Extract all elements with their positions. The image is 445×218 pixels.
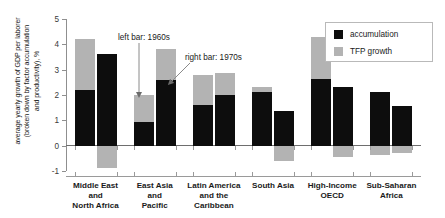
bar-middle-east-and-north-africa-1970s[interactable] — [97, 19, 117, 171]
category-label-high-income-oecd-line-2: OECD — [299, 191, 366, 201]
category-label-latin-america-and-the-caribbean-line-2: and the — [180, 191, 247, 201]
category-label-sub-saharan-africa-line-2: Africa — [358, 191, 425, 201]
bar-high-income-oecd-1970s-accumulation-segment — [333, 87, 353, 145]
annotation-right-bar: right bar: 1970s — [185, 53, 242, 62]
y-tick-1 — [62, 120, 66, 121]
category-label-sub-saharan-africa: Sub-SaharanAfrica — [358, 181, 425, 201]
bar-high-income-oecd-1970s-tfp-segment — [333, 146, 353, 157]
y-tick-label-0: 0 — [54, 141, 59, 150]
category-label-east-asia-and-pacific-line-1: East Asia — [121, 181, 188, 191]
x-tick-latin-america-and-the-caribbean-1 — [235, 146, 236, 150]
category-label-south-asia: South Asia — [240, 181, 307, 191]
y-axis-title-line-1: average yearly growth of GDP per laborer — [14, 17, 22, 144]
y-axis-title: average yearly growth of GDP per laborer… — [5, 1, 51, 161]
y-tick-label-5: 5 — [54, 15, 59, 24]
legend-label-accumulation: accumulation — [350, 30, 398, 39]
bottom-tick-sub-saharan-africa-0 — [370, 172, 371, 176]
bar-south-asia-1960s-accumulation-segment — [252, 92, 272, 145]
chart-container: average yearly growth of GDP per laborer… — [0, 0, 445, 218]
bar-middle-east-and-north-africa-1970s-tfp-segment — [97, 146, 117, 169]
bottom-tick-east-asia-and-pacific-0 — [134, 172, 135, 176]
y-tick-label-2: 2 — [54, 91, 59, 100]
bar-east-asia-and-pacific-1960s-tfp-segment — [134, 95, 154, 122]
x-tick-sub-saharan-africa-0 — [370, 146, 371, 150]
category-label-latin-america-and-the-caribbean: Latin Americaand theCaribbean — [180, 181, 247, 212]
category-label-latin-america-and-the-caribbean-line-1: Latin America — [180, 181, 247, 191]
y-tick-5 — [62, 19, 66, 20]
y-tick-neg1 — [62, 171, 66, 172]
bar-east-asia-and-pacific-1970s-accumulation-segment — [156, 80, 176, 146]
bottom-tick-east-asia-and-pacific-1 — [176, 172, 177, 176]
bar-south-asia-1970s-tfp-segment — [274, 146, 294, 161]
bar-sub-saharan-africa-1960s-accumulation-segment — [370, 92, 390, 145]
x-tick-sub-saharan-africa-1 — [412, 146, 413, 150]
category-label-middle-east-and-north-africa-line-1: Middle East — [62, 181, 129, 191]
bottom-tick-middle-east-and-north-africa-1 — [117, 172, 118, 176]
legend-swatch-tfp-growth — [334, 47, 343, 56]
legend: accumulation TFP growth — [325, 22, 433, 62]
legend-item-tfp-growth: TFP growth — [326, 43, 432, 60]
annotation-left-bar: left bar: 1960s — [118, 33, 170, 42]
x-tick-latin-america-and-the-caribbean-0 — [193, 146, 194, 150]
category-label-middle-east-and-north-africa-line-3: North Africa — [62, 201, 129, 211]
y-tick-4 — [62, 44, 66, 45]
y-tick-label-3: 3 — [54, 65, 59, 74]
bar-south-asia-1960s[interactable] — [252, 19, 272, 171]
bottom-tick-sub-saharan-africa-1 — [412, 172, 413, 176]
bar-sub-saharan-africa-1960s-tfp-segment — [370, 146, 390, 155]
bottom-tick-latin-america-and-the-caribbean-1 — [235, 172, 236, 176]
bar-middle-east-and-north-africa-1960s-tfp-segment — [75, 39, 95, 90]
bottom-tick-south-asia-1 — [294, 172, 295, 176]
legend-swatch-accumulation — [334, 30, 343, 39]
bar-middle-east-and-north-africa-1960s-accumulation-segment — [75, 90, 95, 146]
bottom-tick-south-asia-0 — [252, 172, 253, 176]
x-tick-middle-east-and-north-africa-1 — [117, 146, 118, 150]
bar-east-asia-and-pacific-1970s-tfp-segment — [156, 49, 176, 79]
category-label-middle-east-and-north-africa: Middle EastandNorth Africa — [62, 181, 129, 212]
y-tick-3 — [62, 70, 66, 71]
y-axis-title-line-3: and productivity), % — [33, 51, 41, 111]
bar-latin-america-and-the-caribbean-1970s[interactable] — [215, 19, 235, 171]
bottom-tick-high-income-oecd-1 — [353, 172, 354, 176]
x-tick-high-income-oecd-1 — [353, 146, 354, 150]
bottom-tick-high-income-oecd-0 — [311, 172, 312, 176]
legend-label-tfp-growth: TFP growth — [350, 47, 392, 56]
y-tick-label-neg1: -1 — [52, 167, 59, 176]
x-tick-middle-east-and-north-africa-0 — [75, 146, 76, 150]
y-tick-2 — [62, 95, 66, 96]
y-axis-title-line-2: (broken down by factor accumulation — [23, 25, 31, 137]
bar-south-asia-1970s-accumulation-segment — [274, 111, 294, 145]
bar-sub-saharan-africa-1970s-tfp-segment — [392, 146, 412, 154]
y-tick-label-1: 1 — [54, 116, 59, 125]
y-tick-label-4: 4 — [54, 40, 59, 49]
zero-baseline — [66, 145, 421, 146]
x-tick-east-asia-and-pacific-1 — [176, 146, 177, 150]
bar-middle-east-and-north-africa-1960s[interactable] — [75, 19, 95, 171]
bar-east-asia-and-pacific-1960s-accumulation-segment — [134, 122, 154, 146]
x-tick-high-income-oecd-0 — [311, 146, 312, 150]
category-label-east-asia-and-pacific-line-2: and — [121, 191, 188, 201]
bar-latin-america-and-the-caribbean-1960s-tfp-segment — [193, 75, 213, 105]
bar-south-asia-1960s-tfp-segment — [252, 87, 272, 92]
x-tick-south-asia-0 — [252, 146, 253, 150]
category-label-high-income-oecd-line-1: High-Income — [299, 181, 366, 191]
bar-latin-america-and-the-caribbean-1960s[interactable] — [193, 19, 213, 171]
x-tick-south-asia-1 — [294, 146, 295, 150]
x-tick-east-asia-and-pacific-0 — [134, 146, 135, 150]
category-label-sub-saharan-africa-line-1: Sub-Saharan — [358, 181, 425, 191]
category-label-latin-america-and-the-caribbean-line-3: Caribbean — [180, 201, 247, 211]
category-label-high-income-oecd: High-IncomeOECD — [299, 181, 366, 201]
category-label-middle-east-and-north-africa-line-2: and — [62, 191, 129, 201]
y-axis-line — [66, 19, 67, 171]
bar-latin-america-and-the-caribbean-1970s-accumulation-segment — [215, 95, 235, 146]
bar-south-asia-1970s[interactable] — [274, 19, 294, 171]
bar-latin-america-and-the-caribbean-1960s-accumulation-segment — [193, 105, 213, 146]
bar-high-income-oecd-1960s-accumulation-segment — [311, 79, 331, 146]
bar-latin-america-and-the-caribbean-1970s-tfp-segment — [215, 73, 235, 95]
bar-middle-east-and-north-africa-1970s-accumulation-segment — [97, 54, 117, 145]
category-label-east-asia-and-pacific: East AsiaandPacific — [121, 181, 188, 212]
legend-item-accumulation: accumulation — [326, 26, 432, 43]
category-label-south-asia-line-1: South Asia — [240, 181, 307, 191]
category-label-east-asia-and-pacific-line-3: Pacific — [121, 201, 188, 211]
bottom-tick-middle-east-and-north-africa-0 — [75, 172, 76, 176]
